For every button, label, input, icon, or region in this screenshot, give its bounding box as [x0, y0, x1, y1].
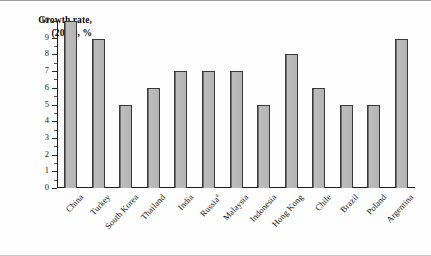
- bar-south-korea: [119, 105, 132, 189]
- y-tick-8: [52, 54, 57, 55]
- y-tick-7: [52, 71, 57, 72]
- y-tick-label-3: 3: [19, 132, 49, 142]
- y-tick-label-1: 1: [19, 165, 49, 175]
- y-tick-label-7: 7: [19, 65, 49, 75]
- y-tick-label-0: 0: [19, 182, 49, 192]
- bar-hong-kong: [285, 54, 298, 188]
- y-tick-minor: [54, 146, 57, 147]
- x-label-russia: Russiaa: [198, 192, 224, 219]
- y-tick-1: [52, 171, 57, 172]
- y-tick-minor: [54, 46, 57, 47]
- y-tick-minor: [54, 96, 57, 97]
- plot-area: 012345678910 ChinaTurkeySouth KoreaThail…: [57, 21, 415, 188]
- y-tick-minor: [54, 130, 57, 131]
- bar-malaysia: [230, 71, 243, 188]
- y-tick-label-9: 9: [19, 32, 49, 42]
- y-tick-5: [52, 105, 57, 106]
- y-tick-minor: [54, 29, 57, 30]
- bar-russia: [202, 71, 215, 188]
- bar-brazil: [340, 105, 353, 189]
- x-label-turkey: Turkey: [88, 192, 112, 217]
- bar-indonesia: [257, 105, 270, 189]
- y-tick-minor: [54, 79, 57, 80]
- y-tick-minor: [54, 113, 57, 114]
- bar-thailand: [147, 88, 160, 188]
- y-tick-label-5: 5: [19, 99, 49, 109]
- y-tick-label-6: 6: [19, 82, 49, 92]
- bar-chile: [312, 88, 325, 188]
- y-tick-minor: [54, 63, 57, 64]
- chart-figure: Growth rate, (2004), % 012345678910 Chin…: [0, 0, 431, 256]
- bar-turkey: [92, 39, 105, 188]
- y-tick-label-8: 8: [19, 48, 49, 58]
- y-tick-10: [52, 21, 57, 22]
- bar-china: [64, 21, 77, 188]
- y-tick-3: [52, 138, 57, 139]
- y-tick-4: [52, 121, 57, 122]
- y-axis: [57, 21, 58, 188]
- x-label-chile: Chile: [313, 192, 333, 213]
- y-tick-label-2: 2: [19, 149, 49, 159]
- bar-poland: [367, 105, 380, 189]
- y-tick-label-10: 10: [19, 15, 49, 25]
- y-tick-0: [52, 188, 57, 189]
- y-tick-6: [52, 88, 57, 89]
- y-tick-9: [52, 38, 57, 39]
- y-tick-minor: [54, 180, 57, 181]
- x-label-poland: Poland: [364, 192, 388, 217]
- x-label-argentina: Argentina: [384, 192, 415, 224]
- x-label-thailand: Thailand: [139, 192, 168, 222]
- x-label-malaysia: Malaysia: [221, 192, 250, 222]
- x-label-china: China: [63, 192, 85, 214]
- y-tick-minor: [54, 163, 57, 164]
- y-tick-label-4: 4: [19, 115, 49, 125]
- y-tick-2: [52, 155, 57, 156]
- bar-india: [174, 71, 187, 188]
- x-label-india: India: [176, 192, 196, 212]
- bar-argentina: [395, 39, 408, 188]
- x-label-brazil: Brazil: [338, 192, 360, 215]
